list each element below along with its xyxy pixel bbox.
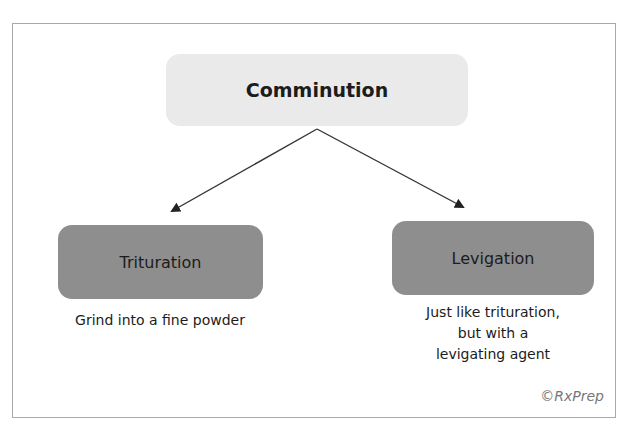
root-label: Comminution [246,79,388,101]
levigation-description-line: but with a [383,323,603,344]
arrow-to-levigation [317,129,463,207]
trituration-label: Trituration [120,253,202,272]
trituration-description: Grind into a fine powder [30,310,290,331]
child-node-trituration: Trituration [58,225,263,299]
child-node-levigation: Levigation [392,221,594,295]
root-node-comminution: Comminution [166,54,468,126]
arrow-to-trituration [172,129,317,211]
trituration-description-line: Grind into a fine powder [30,310,290,331]
levigation-label: Levigation [452,249,535,268]
levigation-description-line: Just like trituration, [383,302,603,323]
levigation-description: Just like trituration, but with a leviga… [383,302,603,365]
levigation-description-line: levigating agent [383,344,603,365]
copyright-label: ©RxPrep [540,388,604,404]
